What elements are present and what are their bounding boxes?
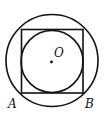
geometry-diagram: O A B: [0, 0, 106, 115]
label-point-b: B: [84, 97, 94, 111]
label-center-o: O: [54, 46, 64, 60]
center-point: [50, 61, 53, 64]
label-point-a: A: [7, 97, 17, 111]
